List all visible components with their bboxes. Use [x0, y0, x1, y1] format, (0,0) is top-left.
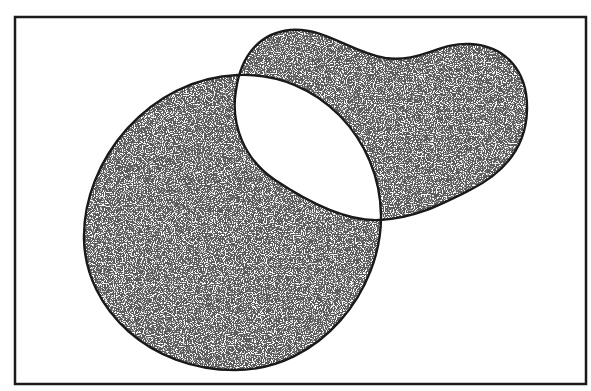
venn-diagram-canvas — [0, 0, 591, 391]
venn-diagram — [0, 0, 591, 391]
